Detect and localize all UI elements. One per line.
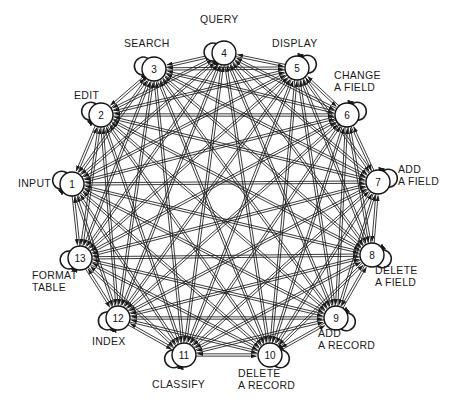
node-label-3: SEARCH <box>124 38 170 50</box>
node-label-5: DISPLAY <box>272 38 318 50</box>
graph-edge <box>127 122 337 308</box>
node-number: 2 <box>98 110 104 121</box>
graph-node[interactable]: 7 <box>366 170 390 194</box>
node-label-9: ADD A RECORD <box>318 328 375 351</box>
graph-edge <box>374 196 378 244</box>
graph-edge <box>131 257 360 314</box>
graph-edge <box>197 320 324 351</box>
node-label-8: DELETE A FIELD <box>375 265 418 288</box>
graph-node[interactable]: 5 <box>285 56 309 80</box>
graph-diagram: 12345678910111213 INPUTEDITSEARCHQUERYDI… <box>0 0 456 411</box>
node-number: 5 <box>294 63 300 74</box>
graph-edge <box>157 81 263 343</box>
graph-node[interactable]: 1 <box>60 172 84 196</box>
graph-edge <box>166 69 284 70</box>
graph-canvas: 12345678910111213 <box>0 0 456 411</box>
node-number: 7 <box>375 177 381 188</box>
graph-node[interactable]: 11 <box>172 343 196 367</box>
graph-edge <box>82 190 323 312</box>
node-number: 10 <box>264 350 276 361</box>
graph-node[interactable]: 13 <box>68 246 92 270</box>
graph-edge <box>272 82 297 344</box>
node-label-4: QUERY <box>200 14 239 26</box>
graph-node[interactable]: 3 <box>142 57 166 81</box>
graph-node[interactable]: 6 <box>335 103 359 127</box>
graph-node[interactable]: 10 <box>258 343 282 367</box>
node-label-13: FORMAT TABLE <box>32 270 77 293</box>
node-label-2: EDIT <box>74 90 99 102</box>
graph-edge <box>166 57 211 67</box>
graph-edge <box>167 67 284 68</box>
graph-edge <box>72 196 77 245</box>
node-number: 11 <box>179 350 190 361</box>
node-label-10: DELETE A RECORD <box>238 368 295 391</box>
node-label-12: INDEX <box>92 336 126 348</box>
graph-edge <box>154 81 181 342</box>
node-number: 6 <box>344 110 350 121</box>
graph-edge <box>185 65 222 342</box>
graph-node[interactable]: 2 <box>89 103 113 127</box>
graph-node[interactable]: 12 <box>106 306 130 330</box>
graph-edge <box>237 55 285 65</box>
graph-edge <box>112 119 364 180</box>
node-number: 12 <box>112 313 124 324</box>
node-number: 8 <box>369 250 375 261</box>
graph-edge <box>187 67 224 344</box>
node-label-11: CLASSIFY <box>152 379 205 391</box>
node-label-6: CHANGE A FIELD <box>334 70 381 93</box>
graph-edge <box>189 81 293 344</box>
graph-edge <box>336 127 346 305</box>
node-number: 1 <box>69 179 75 190</box>
node-number: 13 <box>74 253 86 264</box>
graph-edge <box>75 197 80 246</box>
graph-edge <box>165 77 364 246</box>
node-number: 9 <box>333 313 339 324</box>
node-number: 3 <box>151 64 157 75</box>
node-label-7: ADD A FIELD <box>398 164 439 187</box>
graph-edge <box>372 194 376 242</box>
graph-node[interactable]: 4 <box>212 41 236 65</box>
node-label-1: INPUT <box>18 178 51 190</box>
graph-edge <box>83 129 100 247</box>
node-number: 4 <box>221 48 227 59</box>
